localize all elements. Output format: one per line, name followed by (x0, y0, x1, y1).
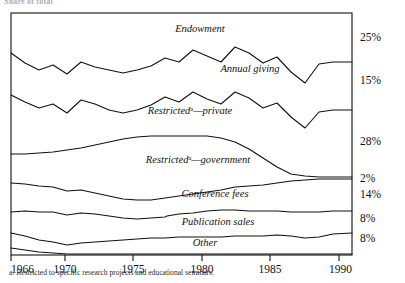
restricted-private-base: Restricted (147, 105, 191, 116)
x-tick-1990: 1990 (329, 263, 352, 275)
x-axis-ticks (11, 255, 339, 261)
restricted-government-tail: —government (190, 154, 251, 165)
y-label-publication-sales: 8% (360, 212, 376, 224)
y-label-restricted-private: 28% (360, 135, 382, 147)
y-label-annual-giving: 15% (360, 74, 382, 86)
chart-figure: Share of total (0, 0, 405, 283)
footnote-marker: a. (9, 268, 14, 277)
restricted-private-tail: —private (192, 105, 232, 116)
y-axis-right-labels: 25% 15% 28% 2% 14% 8% 8% (360, 31, 382, 244)
series-label-restricted-private: Restricteda—private (147, 105, 233, 117)
series-label-conference-fees: Conference fees (182, 188, 249, 199)
restricted-government-base: Restricted (145, 154, 189, 165)
x-tick-1985: 1985 (259, 263, 282, 275)
series-label-restricted-government: Restricteda—government (145, 154, 251, 166)
series-label-other: Other (193, 237, 218, 248)
series-label-endowment: Endowment (174, 23, 226, 34)
series-label-publication-sales: Publication sales (181, 216, 255, 227)
series-label-annual-giving: Annual giving (219, 63, 279, 74)
chart-plot-area: 1966 1970 1975 1980 1985 1990 25% 15% 28… (0, 0, 405, 283)
y-label-conference-fees: 14% (360, 188, 382, 200)
y-label-restricted-government: 2% (360, 172, 376, 184)
chart-footnote: a. Restricted to specific research proje… (9, 268, 214, 277)
y-label-other: 8% (360, 232, 376, 244)
y-label-endowment: 25% (360, 31, 382, 43)
footnote-text: Restricted to specific research projects… (16, 268, 214, 277)
